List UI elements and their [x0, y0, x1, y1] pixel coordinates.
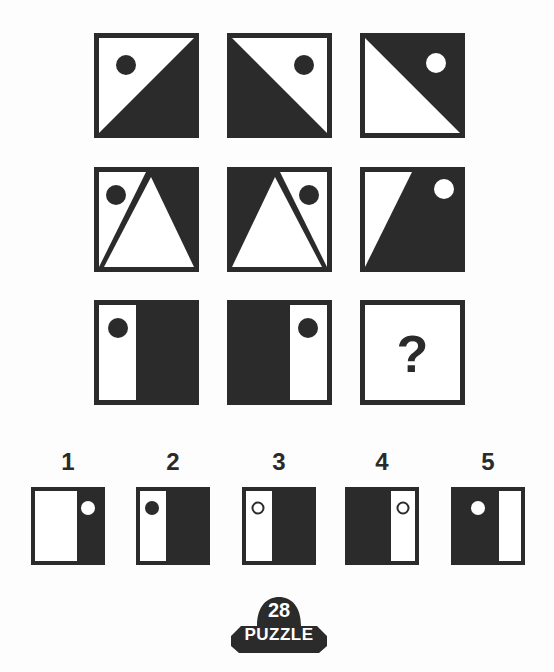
grid-cell-r2c2: [227, 167, 332, 272]
option-5[interactable]: [451, 487, 525, 565]
option-2[interactable]: [136, 487, 210, 565]
question-mark: ?: [360, 324, 465, 384]
puzzle-number: 28: [229, 599, 329, 622]
option-3[interactable]: [242, 487, 316, 565]
option-5-label: 5: [451, 448, 525, 476]
option-1[interactable]: [31, 487, 105, 565]
option-4-label: 4: [345, 448, 419, 476]
grid-cell-r1c2: [227, 33, 332, 138]
grid-cell-r1c3: [360, 33, 465, 138]
puzzle-label: PUZZLE: [229, 625, 329, 645]
option-3-label: 3: [242, 448, 316, 476]
grid-cell-r3c3-missing: ?: [360, 300, 465, 405]
grid-cell-r1c1: [94, 33, 199, 138]
option-1-label: 1: [31, 448, 105, 476]
grid-cell-r3c1: [94, 300, 199, 405]
grid-cell-r2c1: [94, 167, 199, 272]
option-2-label: 2: [136, 448, 210, 476]
option-4[interactable]: [345, 487, 419, 565]
grid-cell-r2c3: [360, 167, 465, 272]
puzzle-number-badge: 28 PUZZLE: [229, 596, 329, 654]
grid-cell-r3c2: [227, 300, 332, 405]
